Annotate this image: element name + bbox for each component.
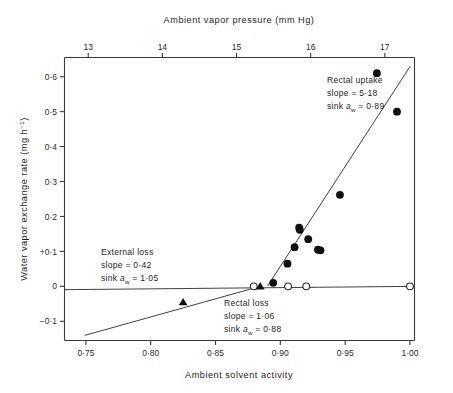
left-tick-label: +0·1 — [40, 247, 58, 257]
left-tick-label: 0·4 — [45, 142, 58, 152]
data-point-filled-circle — [393, 108, 401, 116]
external-loss-title: External loss — [101, 247, 153, 257]
rectal-uptake-title: Rectal uptake — [327, 75, 383, 85]
data-point-filled-circle — [336, 191, 344, 199]
left-tick-label: 0·6 — [45, 72, 58, 82]
bottom-axis-title: Ambient solvent activity — [185, 370, 293, 380]
ru-sink-suffix: = 0·89 — [356, 101, 385, 111]
el-sink-prefix: sink — [101, 273, 120, 283]
data-point-filled-circle — [317, 246, 325, 254]
rectal-loss-sink: sink aw = 0·88 — [224, 324, 281, 336]
left-tick-label: 0·3 — [45, 177, 58, 187]
rl-sink-prefix: sink — [224, 324, 243, 334]
top-tick-label: 14 — [158, 42, 168, 52]
data-point-filled-circle — [291, 243, 299, 251]
water-vapor-exchange-chart: 1314151617 Ambient vapor pressure (mm Hg… — [0, 0, 453, 393]
rectal-loss-title: Rectal loss — [224, 298, 269, 308]
chart-background — [0, 0, 453, 393]
data-point-open-circle — [303, 283, 310, 290]
bottom-tick-label: 1·00 — [401, 348, 418, 358]
bottom-tick-label: 0·95 — [337, 348, 354, 358]
svg-text:Water vapor exchange rate (mg: Water vapor exchange rate (mg h−1) — [18, 117, 29, 281]
bottom-tick-label: 0·80 — [142, 348, 159, 358]
rectal-uptake-sink: sink aw = 0·89 — [327, 101, 384, 113]
bottom-tick-label: 0·75 — [77, 348, 94, 358]
y-title-main: Water vapor exchange rate (mg h — [19, 129, 29, 281]
bottom-tick-label: 0·85 — [207, 348, 224, 358]
data-point-filled-circle — [296, 226, 304, 234]
top-tick-label: 17 — [380, 42, 390, 52]
left-tick-label: 0·5 — [45, 107, 58, 117]
data-point-filled-circle — [269, 279, 277, 287]
annotation-rectal-uptake: Rectal uptake slope = 5·18 sink aw = 0·8… — [327, 75, 384, 113]
el-sink-suffix: = 1·05 — [130, 273, 159, 283]
external-loss-slope: slope = 0·42 — [101, 260, 152, 270]
top-tick-label: 13 — [83, 42, 93, 52]
ru-sink-prefix: sink — [327, 101, 346, 111]
left-axis-title: Water vapor exchange rate (mg h−1) — [18, 117, 29, 281]
bottom-tick-label: 0·90 — [272, 348, 289, 358]
rl-sink-suffix: = 0·88 — [253, 324, 282, 334]
y-title-superscript: −1 — [18, 121, 25, 129]
y-title-close: ) — [19, 117, 29, 121]
top-axis-title: Ambient vapor pressure (mm Hg) — [164, 15, 315, 25]
left-tick-label: −0·1 — [40, 316, 58, 326]
data-point-open-circle — [407, 283, 414, 290]
data-point-open-circle — [285, 283, 292, 290]
figure-container: 1314151617 Ambient vapor pressure (mm Hg… — [0, 0, 453, 393]
left-tick-label: 0 — [52, 281, 57, 291]
external-loss-sink: sink aw = 1·05 — [101, 273, 158, 285]
data-point-filled-circle — [304, 235, 312, 243]
data-point-open-circle — [250, 283, 257, 290]
data-point-filled-circle — [284, 260, 292, 268]
top-tick-label: 16 — [306, 42, 316, 52]
rectal-loss-slope: slope = 1·06 — [224, 311, 275, 321]
rectal-uptake-slope: slope = 5·18 — [327, 88, 378, 98]
annotation-external-loss: External loss slope = 0·42 sink aw = 1·0… — [101, 247, 158, 285]
top-tick-label: 15 — [232, 42, 242, 52]
left-tick-label: 0·2 — [45, 212, 58, 222]
